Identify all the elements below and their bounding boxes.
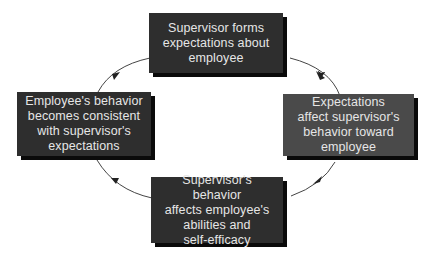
node-label: Employee's behavior becomes consistent w… — [25, 94, 143, 154]
node-expectations-affect-behavior: Expectations affect supervisor's behavio… — [283, 94, 414, 156]
arrow-left-to-top — [98, 58, 150, 92]
node-label: Supervisor's behavior affects employee's… — [157, 173, 277, 248]
arrow-bottom-to-left — [97, 160, 152, 198]
node-supervisor-forms-expectations: Supervisor forms expectations about empl… — [149, 13, 283, 73]
node-behavior-affects-abilities: Supervisor's behavior affects employee's… — [151, 177, 283, 243]
node-employee-behavior-consistent: Employee's behavior becomes consistent w… — [17, 92, 151, 156]
expectation-cycle-diagram: Supervisor forms expectations about empl… — [0, 0, 438, 259]
arrow-top-to-right — [290, 58, 340, 96]
arrow-right-to-bottom — [291, 162, 335, 196]
node-label: Supervisor forms expectations about empl… — [163, 21, 270, 66]
node-label: Expectations affect supervisor's behavio… — [297, 95, 399, 155]
